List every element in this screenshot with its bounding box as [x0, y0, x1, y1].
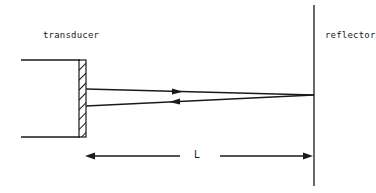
incident-beam — [86, 88, 314, 95]
transducer-label: transducer — [43, 30, 99, 40]
reflector-label: reflector — [325, 30, 376, 40]
incident-arrowhead-icon — [172, 88, 183, 94]
transducer-hatched-face — [79, 60, 86, 137]
distance-left-arrowhead-icon — [85, 153, 95, 160]
distance-right-arrowhead-icon — [303, 153, 313, 160]
distance-label: L — [194, 149, 200, 160]
reflected-beam — [86, 95, 314, 106]
transducer — [21, 60, 86, 137]
